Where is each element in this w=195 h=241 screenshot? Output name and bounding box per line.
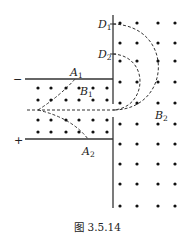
label-d2: D2 (97, 48, 112, 62)
label-a2: A2 (81, 145, 95, 159)
trajectory-b1 (38, 78, 76, 110)
label-d1: D1 (97, 18, 112, 32)
figure-caption: 图 3.5.14 (0, 219, 195, 234)
label-b1: B1 (79, 85, 93, 99)
label-a1: A1 (69, 66, 83, 80)
minus-sign: − (13, 73, 22, 86)
plus-sign: + (14, 134, 23, 147)
magnetic-field-diagram: D1 D2 A1 B1 B2 A2 − + (0, 0, 195, 241)
label-b2: B2 (154, 109, 168, 123)
trajectory-a2 (38, 110, 88, 139)
